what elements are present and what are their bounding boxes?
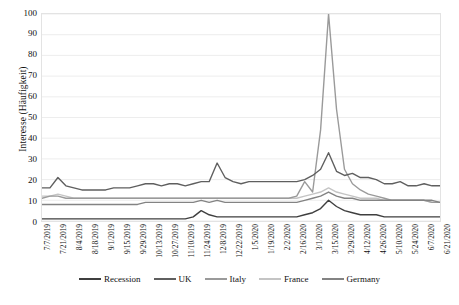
line-chart: Interesse (Häufigkeit) 01020304050607080…	[0, 0, 459, 305]
legend-item-france[interactable]: France	[259, 274, 309, 284]
x-axis-tick-label: 11/24/2019	[204, 224, 212, 257]
legend-item-uk[interactable]: UK	[154, 274, 192, 284]
x-axis-tick-label: 6/7/2020	[428, 224, 436, 250]
legend-label: UK	[179, 274, 192, 284]
legend-label: Recession	[104, 274, 141, 284]
chart-legend: RecessionUKItalyFranceGermany	[0, 274, 459, 284]
x-axis-tick-label: 10/13/2019	[156, 224, 164, 258]
x-axis-tick-label: 11/10/2019	[188, 224, 196, 257]
series-line-recession	[42, 200, 440, 219]
x-axis-tick-label: 8/4/2019	[76, 224, 84, 250]
legend-label: Germany	[347, 274, 381, 284]
legend-swatch-icon	[259, 278, 281, 280]
x-axis-tick-label: 7/21/2019	[60, 224, 68, 254]
y-axis-tick-80: 80	[7, 50, 37, 59]
y-axis-tick-70: 70	[7, 71, 37, 80]
y-axis-tick-60: 60	[7, 92, 37, 101]
x-axis-tick-label: 7/7/2019	[44, 224, 52, 250]
x-axis-tick-label: 9/15/2019	[124, 224, 132, 254]
legend-swatch-icon	[205, 278, 227, 280]
x-axis-tick-label: 6/21/2020	[444, 224, 452, 254]
x-axis-tick-label: 8/18/2019	[92, 224, 100, 254]
legend-swatch-icon	[79, 278, 101, 280]
series-line-uk	[42, 153, 440, 190]
x-axis-tick-label: 3/29/2020	[348, 224, 356, 254]
x-axis-tick-label: 2/16/2020	[300, 224, 308, 254]
y-axis-tick-20: 20	[7, 176, 37, 185]
x-axis-tick-labels: 7/7/20197/21/20198/4/20198/18/20199/1/20…	[41, 224, 441, 268]
legend-label: France	[284, 274, 309, 284]
y-axis-tick-0: 0	[7, 218, 37, 227]
plot-area	[41, 13, 441, 222]
x-axis-tick-label: 3/15/2020	[332, 224, 340, 254]
x-axis-tick-label: 1/5/2020	[252, 224, 260, 250]
y-axis-tick-50: 50	[7, 113, 37, 122]
legend-swatch-icon	[322, 278, 344, 280]
legend-item-germany[interactable]: Germany	[322, 274, 381, 284]
y-axis-tick-10: 10	[7, 197, 37, 206]
x-axis-tick-label: 5/24/2020	[412, 224, 420, 254]
x-axis-tick-label: 4/26/2020	[380, 224, 388, 254]
series-line-italy	[42, 14, 440, 202]
y-axis-tick-30: 30	[7, 155, 37, 164]
x-axis-tick-label: 3/1/2020	[316, 224, 324, 250]
x-axis-tick-label: 12/8/2019	[220, 224, 228, 254]
y-axis-tick-90: 90	[7, 29, 37, 38]
x-axis-tick-label: 2/2/2020	[284, 224, 292, 250]
legend-item-italy[interactable]: Italy	[205, 274, 247, 284]
x-axis-tick-label: 12/22/2019	[236, 224, 244, 258]
legend-label: Italy	[230, 274, 247, 284]
data-series-layer	[42, 14, 440, 221]
legend-item-recession[interactable]: Recession	[79, 274, 141, 284]
legend-swatch-icon	[154, 278, 176, 280]
x-axis-tick-label: 10/27/2019	[172, 224, 180, 258]
x-axis-tick-label: 9/1/2019	[108, 224, 116, 250]
x-axis-tick-label: 5/10/2020	[396, 224, 404, 254]
x-axis-tick-label: 9/29/2019	[140, 224, 148, 254]
x-axis-tick-label: 4/12/2020	[364, 224, 372, 254]
y-axis-tick-40: 40	[7, 134, 37, 143]
y-axis-tick-100: 100	[7, 9, 37, 18]
x-axis-tick-label: 1/19/2020	[268, 224, 276, 254]
